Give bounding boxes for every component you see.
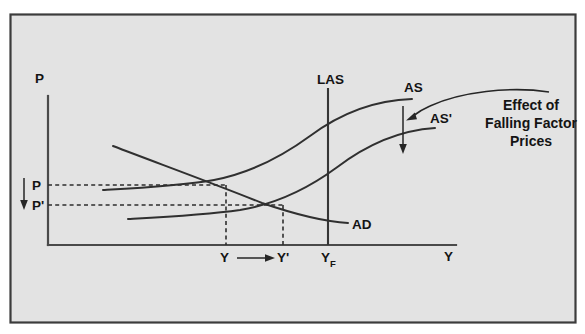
- price-tick-p-prime: P': [32, 198, 44, 213]
- las-curve-label: LAS: [317, 72, 344, 87]
- as-prime-curve-label: AS': [430, 111, 452, 126]
- output-tick-y: Y: [220, 250, 229, 265]
- callout-line-1: Effect of: [503, 97, 559, 113]
- figure-root: P Y LAS AS AS' AD P P' Y Y' Y F Effect o…: [0, 0, 585, 334]
- x-axis-label: Y: [444, 249, 453, 264]
- output-tick-y-full-base: Y: [321, 250, 330, 265]
- diagram-frame: [11, 15, 576, 323]
- y-axis-label: P: [35, 71, 44, 86]
- output-tick-y-prime: Y': [277, 250, 289, 265]
- callout-line-3: Prices: [510, 133, 552, 149]
- callout-line-2: Falling Factor: [485, 115, 577, 131]
- as-ad-diagram: P Y LAS AS AS' AD P P' Y Y' Y F Effect o…: [0, 0, 585, 334]
- output-tick-y-full-subscript: F: [330, 258, 336, 269]
- as-curve-label: AS: [404, 80, 423, 95]
- ad-curve-label: AD: [352, 217, 372, 232]
- price-tick-p: P: [32, 178, 41, 193]
